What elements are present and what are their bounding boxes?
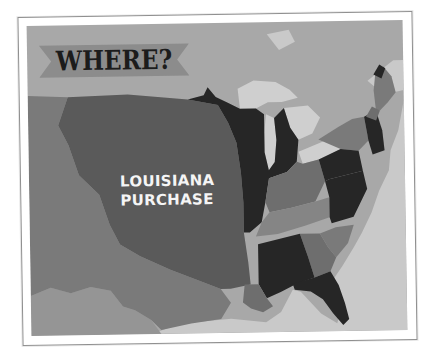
us-map: WHERE? LOUISIANA PURCHASE <box>27 20 408 336</box>
louisiana-purchase-label: LOUISIANA PURCHASE <box>120 171 241 211</box>
map-illustration: WHERE? LOUISIANA PURCHASE <box>0 0 434 357</box>
map-card-frame: WHERE? LOUISIANA PURCHASE <box>17 11 417 346</box>
title-text: WHERE? <box>49 42 179 80</box>
hudson-bay-water <box>267 30 295 50</box>
region-label-line2: PURCHASE <box>120 190 240 211</box>
lake-superior <box>237 80 297 109</box>
title-banner: WHERE? <box>39 41 190 79</box>
region-label-line1: LOUISIANA <box>120 171 240 192</box>
